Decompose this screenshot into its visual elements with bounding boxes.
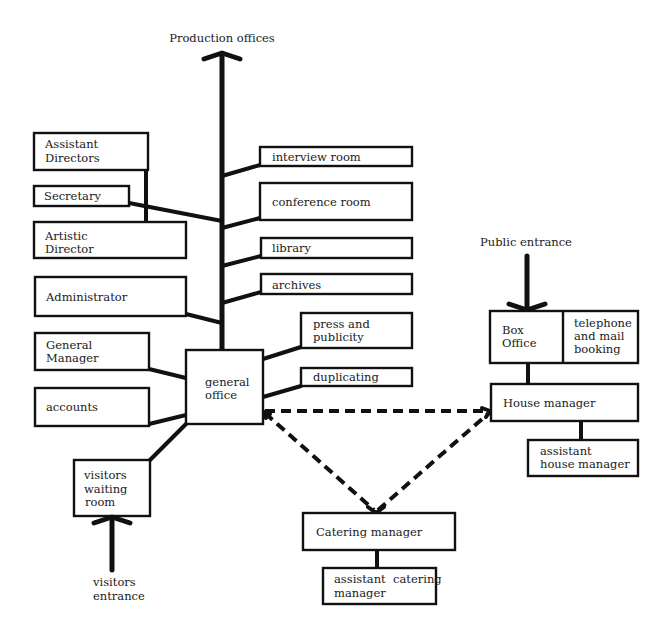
- svg-text:room: room: [85, 495, 115, 509]
- svg-text:Box: Box: [502, 323, 524, 337]
- dashed-links: [264, 408, 490, 513]
- svg-text:Secretary: Secretary: [44, 189, 101, 203]
- node-assistant-catering-manager: assistant catering manager: [323, 568, 442, 604]
- node-accounts: accounts: [35, 388, 149, 426]
- node-administrator: Administrator: [35, 277, 186, 316]
- svg-text:manager: manager: [334, 586, 386, 600]
- general-manager-link: [149, 369, 186, 378]
- dashed-office-to-catering: [265, 413, 374, 510]
- visitors-entrance-label: visitors: [92, 575, 136, 589]
- svg-text:General: General: [46, 338, 93, 352]
- svg-text:archives: archives: [272, 278, 321, 292]
- visitors-room-link: [150, 424, 186, 460]
- svg-text:assistant: assistant: [540, 444, 592, 458]
- svg-text:Administrator: Administrator: [45, 290, 128, 304]
- svg-text:publicity: publicity: [313, 330, 364, 344]
- svg-text:booking: booking: [574, 342, 621, 356]
- svg-text:Catering manager: Catering manager: [316, 525, 423, 539]
- node-house-manager: House manager: [491, 384, 638, 421]
- svg-text:library: library: [272, 241, 312, 255]
- svg-text:press and: press and: [313, 317, 370, 331]
- node-library: library: [261, 238, 412, 258]
- svg-text:assistant catering: assistant catering: [334, 572, 442, 586]
- svg-text:waiting: waiting: [84, 482, 128, 496]
- svg-text:Assistant: Assistant: [44, 137, 99, 151]
- svg-text:office: office: [205, 388, 237, 402]
- dashed-catering-to-house: [378, 413, 489, 510]
- node-general-manager: General Manager: [35, 333, 149, 370]
- org-diagram: Production offices Assistant Directors S…: [0, 0, 668, 635]
- visitors-entrance-arrow-icon: [94, 517, 130, 570]
- svg-text:general: general: [205, 375, 250, 389]
- svg-text:Directors: Directors: [45, 151, 100, 165]
- conference-room-link: [222, 218, 260, 228]
- node-assistant-directors: Assistant Directors: [34, 133, 148, 170]
- production-offices-arrow-icon: [204, 53, 240, 352]
- svg-text:telephone: telephone: [574, 316, 632, 330]
- visitors-entrance-label-2: entrance: [93, 589, 145, 603]
- svg-text:Office: Office: [502, 336, 537, 350]
- svg-text:House manager: House manager: [503, 396, 596, 410]
- node-secretary: Secretary: [34, 186, 129, 206]
- node-general-office: general office: [186, 350, 263, 424]
- svg-text:visitors: visitors: [83, 468, 127, 482]
- svg-text:accounts: accounts: [46, 400, 98, 414]
- duplicating-link: [263, 386, 301, 397]
- node-press-and-publicity: press and publicity: [301, 313, 412, 348]
- secretary-link: [129, 203, 222, 221]
- press-link: [263, 347, 301, 359]
- archives-link: [222, 292, 261, 303]
- public-entrance-label: Public entrance: [480, 235, 572, 249]
- svg-text:interview room: interview room: [272, 150, 361, 164]
- svg-text:Director: Director: [45, 242, 94, 256]
- node-conference-room: conference room: [260, 183, 412, 220]
- node-interview-room: interview room: [260, 147, 412, 166]
- interview-room-link: [222, 165, 260, 176]
- node-archives: archives: [261, 274, 412, 294]
- svg-text:Artistic: Artistic: [44, 229, 88, 243]
- node-visitors-waiting-room: visitors waiting room: [74, 460, 150, 516]
- svg-text:and mail: and mail: [574, 329, 625, 343]
- public-entrance-arrow-icon: [509, 256, 545, 310]
- library-link: [222, 256, 261, 266]
- node-catering-manager: Catering manager: [303, 513, 455, 550]
- accounts-link: [149, 415, 186, 424]
- administrator-link: [186, 314, 222, 323]
- node-artistic-director: Artistic Director: [34, 222, 186, 258]
- svg-text:Manager: Manager: [46, 351, 99, 365]
- svg-text:duplicating: duplicating: [313, 370, 379, 384]
- svg-text:house manager: house manager: [540, 457, 630, 471]
- node-duplicating: duplicating: [301, 368, 412, 386]
- production-offices-label: Production offices: [169, 31, 275, 45]
- svg-text:conference room: conference room: [272, 195, 371, 209]
- node-assistant-house-manager: assistant house manager: [528, 440, 638, 476]
- dashed-arrowhead-house-icon: [482, 408, 490, 417]
